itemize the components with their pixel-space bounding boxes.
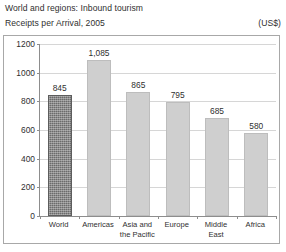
bar[interactable]: 865 bbox=[126, 92, 150, 216]
bar-value-label: 865 bbox=[131, 80, 145, 90]
bar-slot: 685 bbox=[197, 44, 236, 216]
y-axis-tick-label: 1200 bbox=[16, 40, 35, 49]
page-title: World and regions: Inbound tourism bbox=[5, 1, 143, 16]
x-axis-category-label: Middle East bbox=[196, 220, 235, 239]
x-axis-category-label: Asia and the Pacific bbox=[118, 220, 157, 239]
x-axis-category-labels: WorldAmericasAsia and the PacificEuropeM… bbox=[39, 220, 275, 239]
y-axis-tick bbox=[37, 216, 40, 217]
chart-heading: World and regions: Inbound tourism Recei… bbox=[5, 1, 281, 31]
y-axis-tick-label: 600 bbox=[21, 126, 35, 135]
bar-slot: 845 bbox=[40, 44, 79, 216]
plot-wrapper: 120010008006004002000 8451,0858657956855… bbox=[4, 36, 279, 243]
x-axis-tick bbox=[276, 216, 277, 219]
y-axis-tick bbox=[37, 101, 40, 102]
bar-value-label: 845 bbox=[53, 83, 67, 93]
bar-slot: 1,085 bbox=[79, 44, 118, 216]
x-axis-tick bbox=[237, 216, 238, 219]
bar-chart: 120010008006004002000 8451,0858657956855… bbox=[3, 35, 280, 244]
x-axis-category-label: Africa bbox=[236, 220, 275, 239]
x-axis-category-label: World bbox=[39, 220, 78, 239]
bar-slot: 865 bbox=[119, 44, 158, 216]
y-axis-tick-labels: 120010008006004002000 bbox=[4, 40, 35, 216]
bar-slot: 795 bbox=[158, 44, 197, 216]
y-axis-tick bbox=[37, 44, 40, 45]
units-label: (US$) bbox=[258, 16, 281, 31]
bar[interactable]: 1,085 bbox=[87, 60, 111, 216]
heading-line-2: Receipts per Arrival, 2005 (US$) bbox=[5, 16, 281, 31]
bar-value-label: 580 bbox=[249, 121, 263, 131]
y-axis-tick bbox=[37, 187, 40, 188]
x-axis-tick bbox=[40, 216, 41, 219]
x-axis-category-label: Americas bbox=[78, 220, 117, 239]
bar[interactable]: 580 bbox=[244, 133, 268, 216]
bar-value-label: 795 bbox=[171, 90, 185, 100]
y-axis-tick-label: 0 bbox=[30, 212, 35, 221]
x-axis-category-label: Europe bbox=[157, 220, 196, 239]
y-axis-tick-label: 200 bbox=[21, 183, 35, 192]
page-subtitle: Receipts per Arrival, 2005 bbox=[5, 16, 105, 31]
x-axis-tick bbox=[79, 216, 80, 219]
x-axis-tick bbox=[197, 216, 198, 219]
y-axis-tick bbox=[37, 130, 40, 131]
bar[interactable]: 795 bbox=[166, 102, 190, 216]
x-axis-tick bbox=[158, 216, 159, 219]
x-axis-tick bbox=[119, 216, 120, 219]
plot-area: 8451,085865795685580 bbox=[39, 44, 276, 217]
bar[interactable]: 845 bbox=[48, 95, 72, 216]
heading-line-1: World and regions: Inbound tourism bbox=[5, 1, 281, 16]
bar-value-label: 1,085 bbox=[89, 48, 110, 58]
bar-slot: 580 bbox=[237, 44, 276, 216]
bar-series: 8451,085865795685580 bbox=[40, 44, 276, 216]
y-axis-tick-label: 400 bbox=[21, 154, 35, 163]
y-axis-tick bbox=[37, 159, 40, 160]
bar-value-label: 685 bbox=[210, 106, 224, 116]
y-axis-tick-label: 800 bbox=[21, 97, 35, 106]
bar[interactable]: 685 bbox=[205, 118, 229, 216]
y-axis-tick bbox=[37, 73, 40, 74]
y-axis-tick-label: 1000 bbox=[16, 68, 35, 77]
